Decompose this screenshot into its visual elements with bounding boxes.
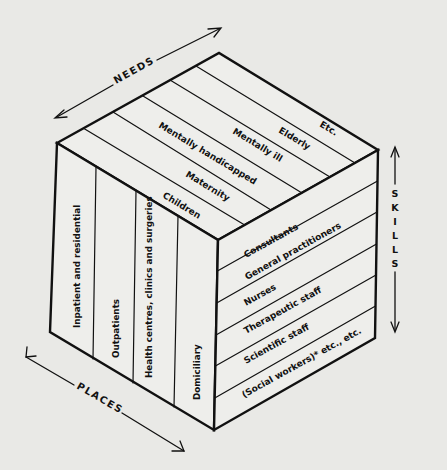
place-health-centres: Health centres, clinics and surgeries — [144, 196, 154, 378]
svg-text:L: L — [392, 244, 398, 255]
needs-places-skills-cube: NEEDS PLACES S K I L L S Children Matern… — [0, 0, 447, 470]
place-domiciliary: Domiciliary — [192, 344, 202, 400]
place-inpatient: Inpatient and residential — [72, 205, 82, 328]
skills-axis-label: S K I L L S — [391, 188, 399, 269]
svg-text:S: S — [392, 258, 399, 269]
needs-axis-label: NEEDS — [112, 54, 157, 85]
places-axis-label: PLACES — [75, 380, 125, 415]
place-outpatients: Outpatients — [111, 299, 121, 358]
svg-text:L: L — [392, 230, 398, 241]
svg-text:K: K — [391, 202, 399, 213]
svg-text:I: I — [393, 216, 397, 227]
svg-text:S: S — [392, 188, 399, 199]
